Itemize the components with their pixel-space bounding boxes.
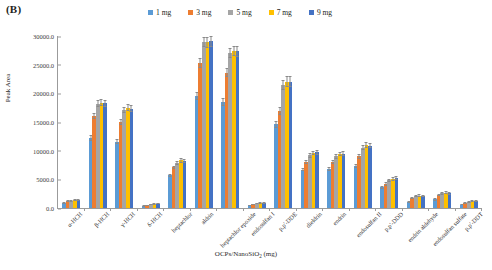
- error-bar: [184, 159, 185, 163]
- y-axis-tick-label: 20000.0: [33, 90, 58, 97]
- legend-label: 3 mg: [196, 9, 211, 17]
- error-bar: [253, 204, 254, 205]
- bar-9-mg: [289, 75, 293, 208]
- bar-9-mg: [156, 202, 160, 208]
- error-bar: [465, 202, 466, 204]
- bar-9-mg: [262, 201, 266, 208]
- bar-rect: [236, 51, 240, 208]
- x-axis-tick-label: α-HCH: [66, 211, 83, 228]
- bar-9-mg: [474, 199, 478, 208]
- bar-rect: [289, 82, 293, 208]
- x-axis-label-slot: heptachlor: [163, 209, 190, 253]
- legend-label: 7 mg: [277, 9, 292, 17]
- x-axis-label-slot: endosulfan sulfate: [428, 209, 455, 253]
- x-axis-tick-label: δ-HCH: [146, 211, 163, 228]
- error-bar: [200, 58, 201, 67]
- bar-rect: [209, 41, 213, 208]
- error-bar: [131, 105, 132, 112]
- legend-item-3-mg: 3 mg: [188, 9, 211, 17]
- error-bar: [385, 182, 386, 185]
- x-axis-label-slot: β-HCH: [84, 209, 111, 253]
- bar-group: [58, 36, 85, 208]
- bar-9-mg: [448, 191, 452, 208]
- bar-groups: [58, 36, 482, 208]
- bar-group: [323, 36, 350, 208]
- error-bar: [449, 192, 450, 195]
- error-bar: [415, 195, 416, 197]
- error-bar: [396, 176, 397, 180]
- error-bar: [256, 203, 257, 204]
- x-axis-title: OCPs/NanoSiO2 (mg): [215, 250, 277, 259]
- x-axis-title-main: OCPs/NanoSiO: [215, 250, 259, 258]
- legend-swatch-icon: [309, 10, 314, 15]
- x-axis-labels: α-HCHβ-HCHγ-HCHδ-HCHheptachloraldrinhept…: [57, 209, 481, 253]
- y-axis-tick-label: 25000.0: [33, 61, 58, 68]
- error-bar: [101, 99, 102, 106]
- bar-rect: [474, 201, 478, 208]
- bar-group: [270, 36, 297, 208]
- error-bar: [445, 191, 446, 194]
- bar-rect: [315, 152, 319, 208]
- legend-label: 5 mg: [236, 9, 251, 17]
- error-bar: [196, 92, 197, 100]
- error-bar: [412, 197, 413, 199]
- bar-9-mg: [103, 99, 107, 208]
- error-bar: [438, 194, 439, 197]
- legend-swatch-icon: [188, 10, 193, 15]
- error-bar: [78, 199, 79, 201]
- bar-group: [85, 36, 112, 208]
- error-bar: [332, 160, 333, 164]
- legend-label: 1 mg: [156, 9, 171, 17]
- x-axis-label-slot: α-HCH: [57, 209, 84, 253]
- bar-9-mg: [315, 149, 319, 208]
- bar-9-mg: [209, 35, 213, 208]
- error-bar: [150, 204, 151, 205]
- error-bar: [173, 166, 174, 169]
- legend-item-7-mg: 7 mg: [269, 9, 292, 17]
- error-bar: [94, 113, 95, 119]
- error-bar: [336, 154, 337, 158]
- error-bar: [408, 201, 409, 203]
- error-bar: [286, 76, 287, 87]
- y-axis-tick-label: 5000.0: [36, 176, 58, 183]
- y-axis-title: Peak Area: [4, 74, 12, 103]
- error-bar: [306, 160, 307, 164]
- error-bar: [180, 158, 181, 162]
- error-bar: [343, 151, 344, 156]
- error-bar: [226, 68, 227, 77]
- chart-legend: 1 mg3 mg5 mg7 mg9 mg: [148, 9, 332, 17]
- legend-item-9-mg: 9 mg: [309, 9, 332, 17]
- bar-rect: [103, 103, 107, 208]
- error-bar: [97, 100, 98, 107]
- error-bar: [290, 76, 291, 87]
- x-axis-tick-label: dieldrin: [305, 211, 323, 229]
- error-bar: [260, 202, 261, 203]
- bar-9-mg: [395, 175, 399, 208]
- error-bar: [230, 48, 231, 58]
- legend-label: 9 mg: [317, 9, 332, 17]
- error-bar: [283, 80, 284, 90]
- x-axis-label-slot: γ-HCH: [110, 209, 137, 253]
- bar-9-mg: [77, 198, 81, 208]
- x-axis-label-slot: endosulfan I: [243, 209, 270, 253]
- x-axis-label-slot: endrin: [322, 209, 349, 253]
- error-bar: [382, 186, 383, 189]
- error-bar: [472, 200, 473, 202]
- bar-group: [111, 36, 138, 208]
- error-bar: [302, 168, 303, 171]
- panel-label: (B): [6, 3, 21, 15]
- bar-rect: [183, 161, 187, 208]
- error-bar: [104, 100, 105, 107]
- error-bar: [468, 201, 469, 203]
- x-axis-label-slot: heptachlor epoxide: [216, 209, 243, 253]
- plot-area: 0.05000.010000.015000.020000.025000.0300…: [57, 36, 482, 209]
- error-bar: [359, 154, 360, 159]
- x-axis-label-slot: aldrin: [190, 209, 217, 253]
- bar-rect: [156, 204, 160, 208]
- error-bar: [64, 202, 65, 204]
- bar-rect: [448, 193, 452, 208]
- error-bar: [143, 206, 144, 207]
- bar-group: [456, 36, 483, 208]
- x-axis-label-slot: dieldrin: [296, 209, 323, 253]
- x-axis-tick-label: p,p'-DDT: [463, 211, 484, 232]
